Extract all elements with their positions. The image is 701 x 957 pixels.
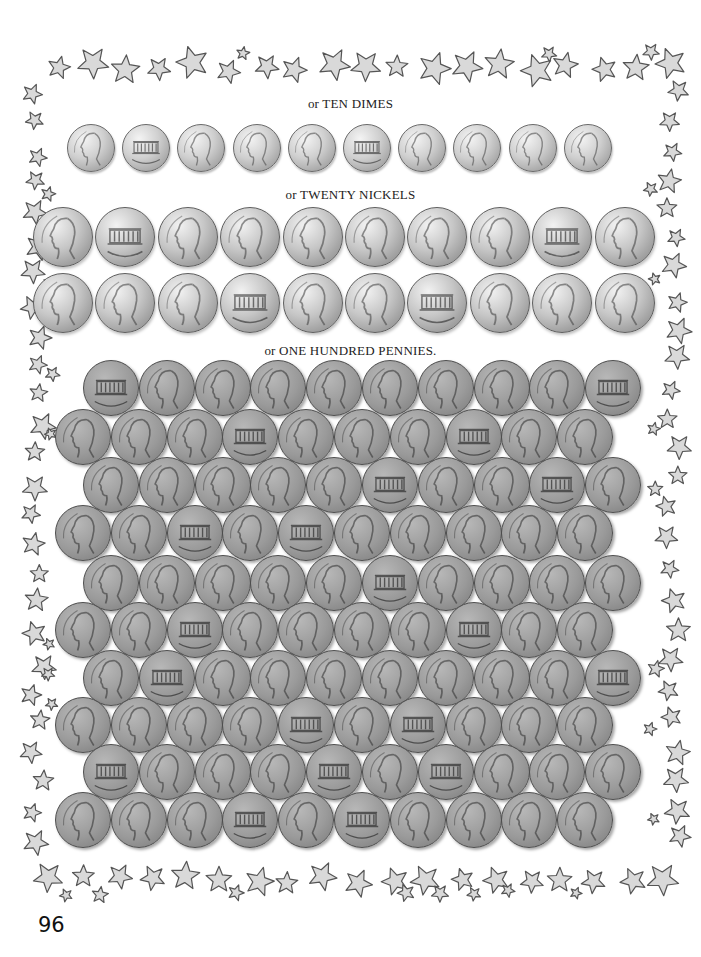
dime-tails <box>343 124 391 172</box>
penny-heads <box>334 505 390 561</box>
penny-tails <box>334 792 390 848</box>
penny-heads <box>446 505 502 561</box>
penny-heads <box>390 602 446 658</box>
penny-heads <box>195 744 251 800</box>
penny-tails <box>167 505 223 561</box>
penny-heads <box>501 792 557 848</box>
caption-one-hundred-pennies: or ONE HUNDRED PENNIES. <box>0 343 701 359</box>
penny-heads <box>585 457 641 513</box>
penny-heads <box>83 457 139 513</box>
penny-heads <box>139 744 195 800</box>
penny-heads <box>557 602 613 658</box>
nickel-heads <box>158 207 218 267</box>
penny-heads <box>474 457 530 513</box>
nickel-heads <box>470 207 530 267</box>
penny-heads <box>418 360 474 416</box>
penny-heads <box>362 360 418 416</box>
penny-heads <box>501 409 557 465</box>
nickel-heads <box>95 273 155 333</box>
nickel-heads <box>345 207 405 267</box>
penny-tails <box>83 744 139 800</box>
penny-tails <box>222 792 278 848</box>
caption-ten-dimes: or TEN DIMES <box>0 96 701 112</box>
penny-heads <box>306 360 362 416</box>
penny-heads <box>557 792 613 848</box>
penny-heads <box>195 457 251 513</box>
nickel-heads <box>33 207 93 267</box>
penny-heads <box>250 744 306 800</box>
penny-heads <box>278 602 334 658</box>
penny-heads <box>111 409 167 465</box>
penny-tails <box>418 744 474 800</box>
penny-heads <box>195 360 251 416</box>
penny-heads <box>55 602 111 658</box>
penny-heads <box>334 409 390 465</box>
penny-heads <box>55 792 111 848</box>
penny-heads <box>278 792 334 848</box>
penny-heads <box>139 457 195 513</box>
penny-heads <box>390 409 446 465</box>
penny-tails <box>278 505 334 561</box>
nickel-tails <box>220 273 280 333</box>
penny-heads <box>111 792 167 848</box>
penny-heads <box>55 409 111 465</box>
penny-heads <box>390 792 446 848</box>
nickel-heads <box>470 273 530 333</box>
penny-heads <box>111 602 167 658</box>
penny-heads <box>529 360 585 416</box>
nickel-heads <box>595 273 655 333</box>
nickel-heads <box>220 207 280 267</box>
dime-heads <box>398 124 446 172</box>
dime-heads <box>564 124 612 172</box>
dime-heads <box>509 124 557 172</box>
dime-tails <box>122 124 170 172</box>
penny-tails <box>167 602 223 658</box>
nickel-heads <box>407 207 467 267</box>
penny-heads <box>222 505 278 561</box>
penny-tails <box>585 360 641 416</box>
penny-tails <box>446 602 502 658</box>
penny-heads <box>111 505 167 561</box>
penny-heads <box>557 409 613 465</box>
penny-heads <box>167 409 223 465</box>
penny-heads <box>278 409 334 465</box>
dime-heads <box>67 124 115 172</box>
nickel-heads <box>283 273 343 333</box>
nickel-heads <box>532 273 592 333</box>
penny-tails <box>446 409 502 465</box>
nickel-tails <box>407 273 467 333</box>
nickel-heads <box>345 273 405 333</box>
penny-heads <box>418 457 474 513</box>
dime-heads <box>233 124 281 172</box>
penny-tails <box>529 457 585 513</box>
penny-heads <box>446 792 502 848</box>
penny-heads <box>474 360 530 416</box>
penny-heads <box>362 744 418 800</box>
nickel-tails <box>95 207 155 267</box>
nickel-heads <box>33 273 93 333</box>
dime-heads <box>177 124 225 172</box>
penny-heads <box>55 505 111 561</box>
penny-heads <box>167 792 223 848</box>
penny-heads <box>334 602 390 658</box>
penny-heads <box>501 602 557 658</box>
penny-tails <box>222 409 278 465</box>
nickel-heads <box>595 207 655 267</box>
penny-heads <box>390 505 446 561</box>
penny-heads <box>501 505 557 561</box>
penny-tails <box>83 360 139 416</box>
penny-heads <box>250 457 306 513</box>
penny-heads <box>557 505 613 561</box>
penny-heads <box>585 744 641 800</box>
dime-heads <box>288 124 336 172</box>
penny-tails <box>362 457 418 513</box>
penny-heads <box>474 744 530 800</box>
penny-heads <box>222 602 278 658</box>
nickel-heads <box>158 273 218 333</box>
penny-heads <box>139 360 195 416</box>
penny-heads <box>250 360 306 416</box>
dime-heads <box>453 124 501 172</box>
nickel-tails <box>532 207 592 267</box>
penny-heads <box>306 457 362 513</box>
nickel-heads <box>283 207 343 267</box>
